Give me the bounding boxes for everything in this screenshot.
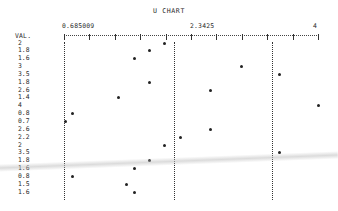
- data-point: [163, 42, 166, 45]
- data-point: [133, 167, 136, 170]
- row-label: 1.5: [18, 181, 30, 188]
- x-axis-tick: [191, 34, 192, 40]
- row-label: 1.6: [18, 189, 30, 196]
- data-point: [117, 96, 120, 99]
- ucl-line: [272, 42, 273, 200]
- data-point: [209, 89, 212, 92]
- x-axis-tick: [64, 34, 65, 40]
- x-axis-tick: [140, 34, 141, 40]
- data-point: [278, 73, 281, 76]
- data-point: [240, 65, 243, 68]
- data-point: [133, 57, 136, 60]
- x-axis-tick: [166, 34, 167, 40]
- row-label: 2.2: [18, 134, 30, 141]
- x-axis-tick: [267, 34, 268, 40]
- data-point: [317, 104, 320, 107]
- x-axis-tick: [318, 34, 319, 40]
- row-label: 0.8: [18, 173, 30, 180]
- data-point: [163, 144, 166, 147]
- center-line: [174, 42, 175, 200]
- data-point: [133, 191, 136, 194]
- axis-min-label: 0.685009: [62, 23, 94, 30]
- data-point: [179, 136, 182, 139]
- row-label: 3: [18, 63, 22, 70]
- x-axis-tick: [216, 34, 217, 40]
- chart-title: U CHART: [0, 7, 338, 15]
- x-axis-tick: [115, 34, 116, 40]
- data-point: [209, 128, 212, 131]
- data-point: [71, 175, 74, 178]
- x-axis-tick: [242, 34, 243, 40]
- row-label: 0.7: [18, 118, 30, 125]
- x-axis-tick: [293, 34, 294, 40]
- x-axis-tick: [89, 34, 90, 40]
- row-label: 1.8: [18, 79, 30, 86]
- scan-artifact: [0, 151, 338, 172]
- data-point: [125, 183, 128, 186]
- row-label: 2.6: [18, 126, 30, 133]
- data-point: [71, 112, 74, 115]
- data-point: [64, 120, 67, 123]
- row-label: 3.5: [18, 71, 30, 78]
- data-point: [148, 49, 151, 52]
- data-point: [148, 81, 151, 84]
- axis-mid-label: 2.3425: [190, 23, 214, 30]
- axis-max-label: 4: [313, 23, 317, 30]
